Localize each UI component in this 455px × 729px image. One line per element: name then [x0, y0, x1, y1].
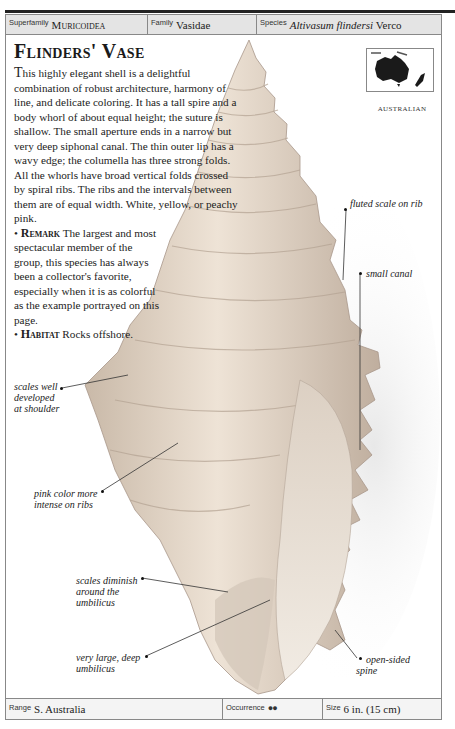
footprints-icon: ●● — [268, 703, 277, 713]
callout-dot — [60, 387, 63, 390]
range-label: Range — [9, 703, 31, 712]
callout-open-sided-spine: open-sided spine — [356, 654, 416, 676]
occurrence-cell: Occurrence ●● — [223, 699, 323, 719]
callout-dot — [344, 208, 347, 211]
callout-dot — [145, 655, 148, 658]
callout-lines — [0, 0, 455, 729]
callout-fluted-scale: fluted scale on rib — [350, 198, 423, 209]
callout-small-canal: small canal — [366, 268, 446, 279]
range-value: S. Australia — [34, 703, 85, 715]
size-label: Size — [326, 703, 341, 712]
size-cell: Size 6 in. (15 cm) — [323, 699, 441, 719]
callout-dot — [141, 577, 144, 580]
callout-dot — [101, 490, 104, 493]
occurrence-label: Occurrence — [226, 703, 265, 712]
callout-umbilicus: very large, deep umbilicus — [76, 652, 144, 674]
callout-dot — [359, 272, 362, 275]
info-footer: Range S. Australia Occurrence ●● Size 6 … — [5, 698, 442, 720]
range-cell: Range S. Australia — [6, 699, 223, 719]
callout-scales-diminish: scales diminish around the umbilicus — [76, 575, 138, 608]
callout-pink-color: pink color more intense on ribs — [34, 488, 100, 510]
callout-shoulder-scales: scales well developed at shoulder — [14, 381, 60, 414]
size-value: 6 in. (15 cm) — [344, 703, 401, 715]
